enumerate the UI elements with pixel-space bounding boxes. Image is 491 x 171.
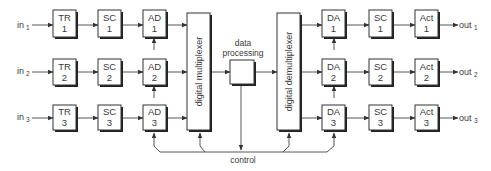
svg-text:SC: SC bbox=[103, 61, 116, 72]
svg-text:AD: AD bbox=[148, 12, 161, 23]
svg-text:1: 1 bbox=[26, 24, 30, 31]
svg-text:out: out bbox=[459, 113, 472, 123]
svg-text:3: 3 bbox=[378, 117, 383, 128]
sc-in-box-2: SC 2 bbox=[98, 59, 123, 87]
svg-text:DA: DA bbox=[327, 12, 341, 23]
svg-text:data: data bbox=[235, 38, 252, 48]
svg-text:TR: TR bbox=[58, 12, 71, 23]
svg-text:2: 2 bbox=[62, 72, 67, 83]
svg-text:1: 1 bbox=[62, 23, 67, 34]
svg-text:TR: TR bbox=[58, 61, 71, 72]
da-box-1: DA 1 bbox=[322, 10, 347, 39]
input-label-3: in 3 bbox=[17, 112, 30, 123]
svg-text:2: 2 bbox=[26, 70, 30, 77]
input-label-1: in 1 bbox=[17, 20, 30, 31]
svg-text:SC: SC bbox=[103, 12, 116, 23]
svg-text:2: 2 bbox=[474, 71, 478, 78]
svg-text:in: in bbox=[17, 20, 24, 30]
svg-text:1: 1 bbox=[107, 23, 112, 34]
svg-text:2: 2 bbox=[331, 72, 336, 83]
svg-text:1: 1 bbox=[152, 23, 157, 34]
sc-out-box-2: SC 2 bbox=[369, 59, 394, 87]
svg-text:3: 3 bbox=[331, 117, 336, 128]
ad-box-3: AD 3 bbox=[143, 105, 168, 132]
svg-text:Act: Act bbox=[420, 12, 434, 23]
tr-box-2: TR 2 bbox=[53, 59, 78, 87]
output-label-3: out 3 bbox=[459, 113, 478, 124]
svg-text:in: in bbox=[17, 66, 24, 76]
svg-text:AD: AD bbox=[148, 106, 161, 117]
svg-text:3: 3 bbox=[152, 117, 157, 128]
svg-text:2: 2 bbox=[152, 72, 157, 83]
ad-box-2: AD 2 bbox=[143, 59, 168, 87]
tr-box-1: TR 1 bbox=[53, 10, 78, 39]
svg-text:SC: SC bbox=[103, 106, 116, 117]
sc-out-box-1: SC 1 bbox=[369, 10, 394, 39]
data-processing-box bbox=[230, 60, 256, 86]
svg-text:DA: DA bbox=[327, 61, 341, 72]
sc-in-box-1: SC 1 bbox=[98, 10, 123, 39]
svg-text:SC: SC bbox=[374, 106, 387, 117]
digital-multiplexer: digital multiplexer bbox=[187, 13, 212, 132]
svg-text:digital multiplexer: digital multiplexer bbox=[194, 37, 204, 107]
svg-text:Act: Act bbox=[420, 106, 434, 117]
output-label-2: out 2 bbox=[459, 67, 478, 78]
svg-text:AD: AD bbox=[148, 61, 161, 72]
svg-text:3: 3 bbox=[424, 117, 429, 128]
svg-text:digital demultiplexer: digital demultiplexer bbox=[284, 32, 294, 112]
control-bus bbox=[154, 86, 334, 152]
block-diagram: in 1 in 2 in 3 TR 1 bbox=[0, 0, 491, 171]
svg-text:TR: TR bbox=[58, 106, 71, 117]
svg-text:3: 3 bbox=[107, 117, 112, 128]
svg-text:3: 3 bbox=[474, 117, 478, 124]
svg-text:out: out bbox=[459, 20, 472, 30]
data-processing-caption: data processing bbox=[222, 38, 263, 58]
act-box-3: Act 3 bbox=[415, 105, 440, 132]
svg-text:out: out bbox=[459, 67, 472, 77]
act-box-2: Act 2 bbox=[415, 59, 440, 87]
svg-text:SC: SC bbox=[374, 61, 387, 72]
output-label-1: out 1 bbox=[459, 20, 478, 31]
svg-text:3: 3 bbox=[26, 116, 30, 123]
svg-text:in: in bbox=[17, 112, 24, 122]
da-box-3: DA 3 bbox=[322, 105, 347, 132]
sc-out-box-3: SC 3 bbox=[369, 105, 394, 132]
ad-box-1: AD 1 bbox=[143, 10, 168, 39]
svg-text:DA: DA bbox=[327, 106, 341, 117]
svg-text:Act: Act bbox=[420, 61, 434, 72]
svg-text:3: 3 bbox=[62, 117, 67, 128]
svg-text:2: 2 bbox=[107, 72, 112, 83]
svg-text:2: 2 bbox=[378, 72, 383, 83]
svg-text:2: 2 bbox=[424, 72, 429, 83]
digital-demultiplexer: digital demultiplexer bbox=[277, 13, 302, 132]
control-label: control bbox=[230, 155, 256, 165]
svg-text:1: 1 bbox=[378, 23, 383, 34]
act-box-1: Act 1 bbox=[415, 10, 440, 39]
tr-box-3: TR 3 bbox=[53, 105, 78, 132]
svg-text:processing: processing bbox=[222, 48, 263, 58]
svg-text:1: 1 bbox=[474, 24, 478, 31]
sc-in-box-3: SC 3 bbox=[98, 105, 123, 132]
svg-text:SC: SC bbox=[374, 12, 387, 23]
da-box-2: DA 2 bbox=[322, 59, 347, 87]
svg-text:1: 1 bbox=[424, 23, 429, 34]
svg-text:1: 1 bbox=[331, 23, 336, 34]
input-label-2: in 2 bbox=[17, 66, 30, 77]
